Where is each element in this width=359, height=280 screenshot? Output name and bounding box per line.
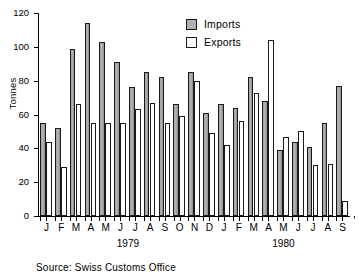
bar-imports: [99, 42, 105, 216]
y-axis-tick-label: 100: [3, 42, 29, 52]
bar-imports: [70, 49, 76, 216]
y-axis-tick-label: 60: [3, 110, 29, 120]
y-axis-tick: [34, 115, 39, 116]
bar-imports: [85, 23, 91, 216]
x-axis-tick-label: A: [143, 221, 157, 235]
x-axis-tick-label: F: [54, 221, 68, 235]
legend-item-imports: Imports: [186, 16, 241, 32]
x-axis-tick-label: O: [173, 221, 187, 235]
x-axis-tick-label: D: [202, 221, 216, 235]
legend-label-exports: Exports: [204, 37, 241, 48]
bar-exports: [283, 137, 289, 217]
bar-exports: [209, 133, 215, 216]
x-axis-tick-label: A: [84, 221, 98, 235]
x-axis-tick-label: M: [247, 221, 261, 235]
bar-exports: [224, 145, 230, 216]
x-axis-tick-label: J: [217, 221, 231, 235]
x-axis-tick-label: J: [128, 221, 142, 235]
x-axis-tick-label: J: [114, 221, 128, 235]
bar-exports: [91, 123, 97, 216]
x-axis-minor-tick: [354, 216, 355, 219]
x-axis-tick-label: M: [69, 221, 83, 235]
legend-swatch-exports-icon: [186, 37, 197, 48]
bar-imports: [322, 123, 328, 216]
bar-imports: [336, 86, 342, 216]
x-axis-tick-label: J: [39, 221, 53, 235]
bar-exports: [135, 109, 141, 216]
bar-exports: [268, 40, 274, 216]
bar-exports: [239, 121, 245, 216]
bar-exports: [313, 165, 319, 216]
x-axis-tick-label: F: [232, 221, 246, 235]
y-axis-tick-label: 120: [3, 8, 29, 18]
bar-exports: [342, 201, 348, 216]
bar-exports: [76, 104, 82, 216]
y-axis-tick-label: 0: [3, 211, 29, 221]
bar-imports: [144, 72, 150, 216]
y-axis-tick-label: 40: [3, 143, 29, 153]
bar-exports: [165, 123, 171, 216]
bar-imports: [129, 87, 135, 216]
x-axis-tick-label: J: [306, 221, 320, 235]
bar-imports: [55, 128, 61, 216]
x-axis-tick-label: S: [158, 221, 172, 235]
y-axis-tick: [34, 182, 39, 183]
legend-label-imports: Imports: [204, 19, 240, 30]
chart-figure: Tonnes 020406080100120 JFMAMJJASONDJFMAM…: [0, 0, 359, 280]
x-axis-tick-label: M: [99, 221, 113, 235]
x-axis-tick-labels: JFMAMJJASONDJFMAMJJAS: [39, 221, 350, 235]
bar-imports: [233, 108, 239, 216]
bar-imports: [248, 77, 254, 216]
x-axis-tick-label: A: [262, 221, 276, 235]
x-axis-tick-label: A: [321, 221, 335, 235]
bar-exports: [194, 81, 200, 216]
y-axis-tick-label: 20: [3, 177, 29, 187]
x-axis-group-label: 1979: [98, 238, 158, 249]
bar-imports: [277, 150, 283, 216]
bar-exports: [150, 103, 156, 216]
x-axis-tick-label: N: [188, 221, 202, 235]
chart-legend: Imports Exports: [186, 16, 241, 52]
source-note: Source: Swiss Customs Office: [36, 262, 176, 273]
x-axis-tick-label: J: [291, 221, 305, 235]
y-axis-tick-label: 80: [3, 76, 29, 86]
bar-imports: [307, 147, 313, 216]
bar-imports: [114, 62, 120, 216]
bar-imports: [218, 104, 224, 216]
x-axis-tick-label: S: [336, 221, 350, 235]
bar-imports: [188, 72, 194, 216]
legend-item-exports: Exports: [186, 34, 241, 50]
y-axis-tick: [34, 13, 39, 14]
bar-imports: [40, 123, 46, 216]
bar-imports: [262, 101, 268, 216]
bar-imports: [159, 77, 165, 216]
y-axis-tick: [34, 148, 39, 149]
bar-imports: [173, 104, 179, 216]
bar-imports: [203, 113, 209, 216]
bar-exports: [120, 123, 126, 216]
bar-imports: [292, 142, 298, 216]
bar-exports: [254, 93, 260, 216]
bar-exports: [298, 131, 304, 216]
x-axis-group-label: 1980: [253, 238, 313, 249]
bar-exports: [46, 142, 52, 216]
legend-swatch-imports-icon: [186, 19, 197, 30]
bar-exports: [61, 167, 67, 216]
y-axis-tick: [34, 47, 39, 48]
bar-exports: [328, 164, 334, 216]
x-axis-tick-label: M: [276, 221, 290, 235]
y-axis-tick: [34, 81, 39, 82]
bar-exports: [179, 116, 185, 216]
bar-exports: [105, 123, 111, 216]
